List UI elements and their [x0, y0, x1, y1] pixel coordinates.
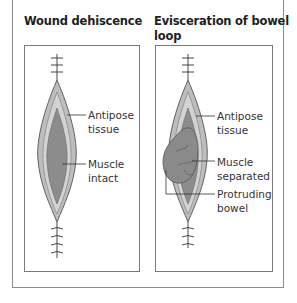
label-protruding-bowel-2: bowel [217, 202, 248, 214]
label-antipose-tissue-left-2: tissue [88, 123, 119, 135]
suture-top-icon [182, 54, 194, 80]
label-protruding-bowel-1: Protruding [217, 188, 272, 200]
evisceration-drawing [163, 54, 215, 248]
label-muscle-intact-2: intact [88, 172, 118, 184]
suture-top-icon [51, 54, 63, 80]
suture-bottom-icon [182, 222, 194, 248]
diagram-illustration: Antipose tissue Muscle intact Antipose t… [0, 0, 297, 303]
label-muscle-separated-1: Muscle [217, 156, 253, 168]
wound-dehiscence-drawing [38, 54, 86, 258]
label-antipose-tissue-right-1: Antipose [217, 110, 263, 122]
label-antipose-tissue-left-1: Antipose [88, 109, 134, 121]
suture-bottom-icon [51, 222, 63, 258]
label-muscle-separated-2: separated [217, 170, 270, 182]
label-muscle-intact-1: Muscle [88, 158, 124, 170]
protruding-bowel [163, 128, 198, 183]
label-antipose-tissue-right-2: tissue [217, 124, 248, 136]
